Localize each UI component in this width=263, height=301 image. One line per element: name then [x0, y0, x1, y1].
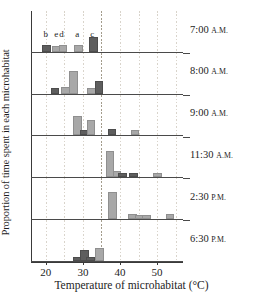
panel-time-period: A.M.: [211, 67, 228, 76]
bar: [108, 129, 117, 136]
bar: [89, 37, 98, 51]
habitat-letter-label: a: [70, 29, 84, 39]
panel-time-label: 8:00 A.M.: [190, 65, 228, 76]
habitat-letter-label: d: [54, 29, 68, 39]
bar: [42, 45, 51, 52]
bar: [95, 248, 104, 261]
panel-time-value: 8:00: [190, 65, 211, 76]
x-tick-label: 30: [68, 266, 98, 278]
bar-group: [31, 52, 183, 94]
figure-root: Proportion of time spent in each microha…: [0, 0, 263, 301]
panel-time-label: 7:00 A.M.: [190, 24, 228, 35]
bar-group: [31, 177, 183, 219]
bar-group: [31, 94, 183, 136]
panel-time-value: 2:30: [190, 191, 211, 202]
plot-area: bedac: [31, 11, 183, 262]
x-tick-label: 40: [105, 266, 135, 278]
bar: [108, 192, 117, 220]
chart-panel: bedac: [31, 11, 183, 53]
chart-panel: [31, 95, 183, 137]
panel-separator-stub: [183, 220, 190, 221]
x-axis-line: 20304050: [31, 262, 183, 263]
panel-time-label: 2:30 P.M.: [190, 191, 226, 202]
panel-separator-stub: [183, 95, 190, 96]
bar: [86, 257, 95, 261]
panel-time-label: 9:00 A.M.: [190, 107, 228, 118]
panel-separator-stub: [183, 178, 190, 179]
panel-time-value: 7:00: [190, 24, 211, 35]
x-tick: [157, 262, 158, 265]
panel-time-value: 9:00: [190, 107, 211, 118]
panel-time-label: 6:30 P.M.: [190, 233, 226, 244]
bar: [87, 120, 96, 135]
panel-time-period: P.M.: [211, 235, 226, 244]
bar: [69, 71, 78, 94]
panel-time-period: A.M.: [216, 151, 233, 160]
bar: [59, 45, 68, 52]
panel-time-period: A.M.: [211, 109, 228, 118]
panel-time-value: 6:30: [190, 233, 211, 244]
panel-separator-stub: [183, 53, 190, 54]
chart-panel: [31, 137, 183, 179]
panel-time-period: A.M.: [211, 26, 228, 35]
panel-time-period: P.M.: [211, 193, 226, 202]
x-tick: [46, 262, 47, 265]
chart-panel: [31, 178, 183, 220]
bar-group: [31, 136, 183, 178]
panel-time-label: 11:30 A.M.: [190, 149, 233, 160]
x-tick: [83, 262, 84, 265]
bar: [95, 81, 104, 93]
chart-panel: [31, 220, 183, 262]
x-tick-label: 20: [31, 266, 61, 278]
y-axis-label: Proportion of time spent in each microha…: [0, 10, 18, 275]
x-tick: [120, 262, 121, 265]
x-tick-label: 50: [142, 266, 172, 278]
x-axis-label: Temperature of microhabitat (°C): [0, 279, 263, 291]
panel-separator-stub: [183, 137, 190, 138]
bar-group: [31, 219, 183, 261]
panel-time-value: 11:30: [190, 149, 216, 160]
chart-panel: [31, 53, 183, 95]
habitat-letter-label: c: [85, 29, 99, 39]
bar: [74, 45, 83, 52]
